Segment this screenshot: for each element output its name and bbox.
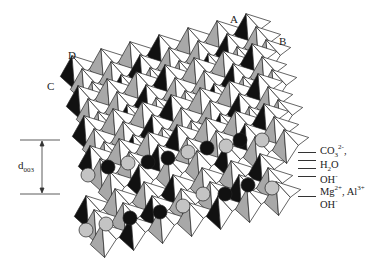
carbonate-sphere xyxy=(241,178,255,192)
water-sphere xyxy=(99,217,113,231)
legend-line-metal-cations xyxy=(298,176,316,177)
ldh-structure-diagram xyxy=(0,0,387,276)
carbonate-sphere xyxy=(161,151,175,165)
carbonate-sphere xyxy=(218,187,232,201)
legend-carbonate: CO32-, xyxy=(320,144,347,159)
water-sphere xyxy=(181,145,195,159)
water-sphere xyxy=(196,187,210,201)
octahedral-layers xyxy=(60,14,308,258)
carbonate-sphere xyxy=(153,205,167,219)
water-sphere xyxy=(81,168,95,182)
water-sphere xyxy=(176,199,190,213)
d003-label: d003 xyxy=(18,160,34,174)
legend-line-hydroxide-top xyxy=(298,168,316,169)
legend-line-water xyxy=(298,160,316,161)
corner-label-d: D xyxy=(68,50,76,61)
water-sphere xyxy=(79,223,93,237)
carbonate-sphere xyxy=(200,141,214,155)
water-sphere xyxy=(121,156,135,170)
carbonate-sphere xyxy=(123,211,137,225)
corner-label-a: A xyxy=(230,14,238,25)
legend-line-hydroxide-bottom xyxy=(298,196,316,197)
water-sphere xyxy=(219,139,233,153)
legend-line-carbonate xyxy=(298,152,316,153)
corner-label-c: C xyxy=(47,81,54,92)
water-sphere xyxy=(265,181,279,195)
corner-label-b: B xyxy=(279,36,286,47)
carbonate-sphere xyxy=(101,160,115,174)
water-sphere xyxy=(255,133,269,147)
carbonate-sphere xyxy=(141,155,155,169)
legend-metal-cations: Mg2+, Al3+ xyxy=(320,185,365,197)
legend-hydroxide-bottom: OH- xyxy=(320,198,338,210)
carbonate-sphere xyxy=(233,133,247,147)
